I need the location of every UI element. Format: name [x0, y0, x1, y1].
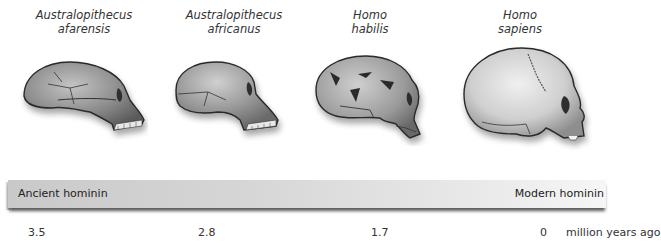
species-label-afarensis: Australopithecus afarensis — [14, 8, 154, 36]
tick-3-5: 3.5 — [28, 226, 46, 239]
tick-1-7: 1.7 — [371, 226, 389, 239]
species-text: habilis — [300, 22, 440, 36]
species-text: africanus — [164, 22, 304, 36]
species-text: afarensis — [14, 22, 154, 36]
modern-hominin-label: Modern hominin — [515, 187, 604, 200]
species-text: sapiens — [450, 22, 590, 36]
tick-2-8: 2.8 — [198, 226, 216, 239]
tick-0: 0 — [540, 226, 547, 239]
unit-label: million years ago — [566, 226, 660, 239]
species-label-habilis: Homo habilis — [300, 8, 440, 36]
genus-text: Homo — [300, 8, 440, 22]
skull-africanus-icon — [168, 60, 288, 142]
timeline-bar: Ancient hominin Modern hominin — [8, 180, 606, 208]
species-label-africanus: Australopithecus africanus — [164, 8, 304, 36]
genus-text: Australopithecus — [14, 8, 154, 22]
species-label-sapiens: Homo sapiens — [450, 8, 590, 36]
skull-habilis-icon — [310, 50, 430, 146]
skull-afarensis-icon — [18, 58, 148, 140]
skull-sapiens-icon — [456, 42, 596, 152]
genus-text: Homo — [450, 8, 590, 22]
ancient-hominin-label: Ancient hominin — [18, 187, 108, 200]
genus-text: Australopithecus — [164, 8, 304, 22]
